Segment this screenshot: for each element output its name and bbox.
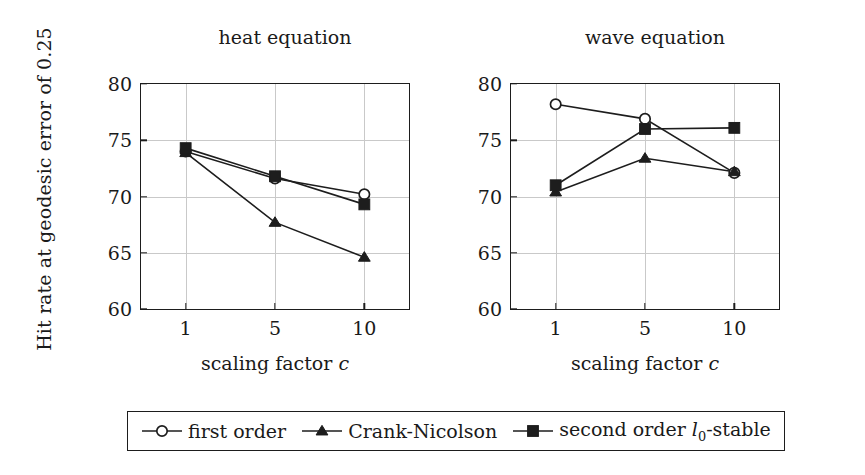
plot-area-heat-equation: 60657075801510 — [140, 83, 410, 310]
data-point-first-order-10 — [359, 189, 369, 199]
x-tick-label: 1 — [180, 317, 192, 339]
panel-title-heat-equation: heat equation — [140, 26, 430, 48]
y-tick-label: 75 — [108, 129, 132, 151]
open-circle-marker — [141, 423, 183, 439]
y-tick-label: 75 — [478, 129, 502, 151]
x-tick-label: 5 — [639, 317, 651, 339]
data-point-crank-nicolson-5 — [639, 153, 651, 163]
y-tick-label: 65 — [478, 242, 502, 264]
legend-label: first order — [188, 420, 286, 442]
y-tick-label: 65 — [108, 242, 132, 264]
y-tick-label: 60 — [478, 298, 502, 320]
y-axis-label: Hit rate at geodesic error of 0.25 — [33, 19, 55, 359]
legend-label: Crank-Nicolson — [348, 420, 497, 442]
filled-square-marker — [512, 423, 554, 439]
series-line-crank-nicolson — [186, 153, 365, 258]
filled-triangle-marker — [316, 425, 328, 435]
data-point-second-order-l0-stable-1 — [550, 180, 561, 191]
filled-triangle-marker — [301, 423, 343, 439]
x-axis-label-wave-equation: scaling factor c — [510, 352, 780, 374]
data-point-second-order-l0-stable-1 — [180, 143, 191, 154]
data-point-first-order-1 — [550, 99, 560, 109]
filled-square-marker — [528, 426, 539, 437]
panel-wave-equation: wave equation 60657075801510 scaling fac… — [470, 0, 800, 400]
figure-root: Hit rate at geodesic error of 0.25 heat … — [0, 0, 865, 475]
x-tick-label: 5 — [269, 317, 281, 339]
x-tick-label: 10 — [722, 317, 746, 339]
open-circle-marker — [157, 426, 167, 436]
data-point-second-order-l0-stable-5 — [270, 171, 281, 182]
panel-title-wave-equation: wave equation — [510, 26, 800, 48]
legend-entry[interactable]: Crank-Nicolson — [301, 420, 497, 442]
data-point-second-order-l0-stable-5 — [640, 124, 651, 135]
plot-area-wave-equation: 60657075801510 — [510, 83, 780, 310]
legend-entry[interactable]: first order — [141, 420, 286, 442]
y-tick-label: 70 — [108, 186, 132, 208]
x-axis-label-heat-equation: scaling factor c — [140, 352, 410, 374]
x-tick-label: 1 — [550, 317, 562, 339]
series-line-crank-nicolson — [556, 158, 735, 192]
y-tick-label: 80 — [478, 73, 502, 95]
y-tick-label: 80 — [108, 73, 132, 95]
series-layer — [511, 84, 779, 309]
series-layer — [141, 84, 409, 309]
panel-heat-equation: heat equation 60657075801510 scaling fac… — [100, 0, 430, 400]
x-tick-label: 10 — [352, 317, 376, 339]
legend: first orderCrank-Nicolsonsecond order l0… — [127, 411, 785, 451]
y-tick-label: 70 — [478, 186, 502, 208]
data-point-second-order-l0-stable-10 — [729, 122, 740, 133]
legend-entry[interactable]: second order l0-stable — [512, 418, 771, 444]
data-point-second-order-l0-stable-10 — [359, 199, 370, 210]
y-tick-label: 60 — [108, 298, 132, 320]
legend-label: second order l0-stable — [559, 418, 771, 444]
data-point-first-order-5 — [640, 114, 650, 124]
